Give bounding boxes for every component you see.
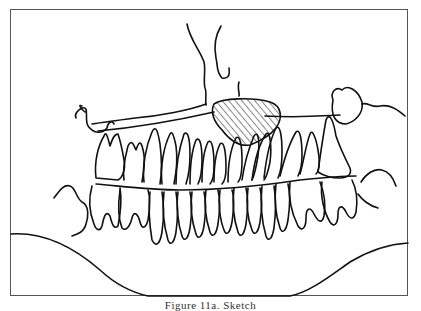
occlusal-line xyxy=(96,176,356,190)
right-jaw-outline xyxy=(332,88,405,208)
mandible-border xyxy=(11,234,408,296)
lower-teeth xyxy=(90,180,357,244)
figure-caption: Figure 11a. Sketch xyxy=(0,299,421,311)
